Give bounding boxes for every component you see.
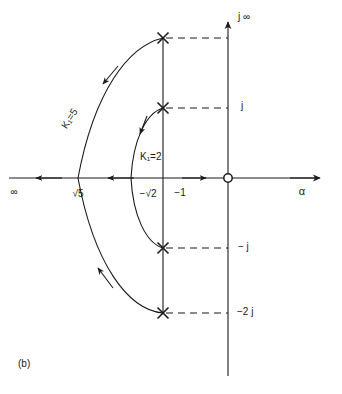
root-locus-arrow-k1-5-lower xyxy=(98,268,113,288)
root-locus-arrow-k1-2-upper xyxy=(140,116,147,134)
tick-label-neg-one: −1 xyxy=(174,187,186,198)
tick-label-neg-sqrt2: −√2 xyxy=(140,188,157,199)
tick-label-sqrt5: √5 xyxy=(72,188,83,199)
figure-caption: (b) xyxy=(18,358,30,369)
tick-label-neg-2j: −2 j xyxy=(237,306,253,317)
root-locus-plot: α j ∞ ∞ √5 −√2 −1 j − j −2 j K₁=5 K₁=2 (… xyxy=(0,0,342,394)
root-locus-curve-k1-5 xyxy=(78,38,163,313)
root-locus-figure: α j ∞ ∞ √5 −√2 −1 j − j −2 j K₁=5 K₁=2 (… xyxy=(0,0,342,394)
imaginary-axis-label: j ∞ xyxy=(237,11,250,22)
real-axis-label: α xyxy=(299,185,306,197)
locus-label-k1-2: K₁=2 xyxy=(140,151,162,162)
zero-marker-origin xyxy=(224,174,232,182)
tick-label-neg-j: − j xyxy=(238,241,249,252)
locus-label-k1-5: K₁=5 xyxy=(59,106,80,130)
left-infinity-label: ∞ xyxy=(10,186,17,197)
tick-label-j: j xyxy=(240,100,243,111)
